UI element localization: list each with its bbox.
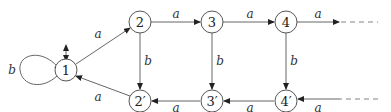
edge-label-2-3: a [172, 7, 179, 21]
state-4: 4 [275, 11, 297, 33]
state-4-prime: 4′ [275, 90, 297, 112]
edge-1-2 [76, 28, 130, 64]
state-1: 1 [55, 59, 77, 81]
state-2: 2 [129, 11, 151, 33]
edge-label-4-next: a [314, 7, 321, 21]
state-label: 2 [136, 15, 144, 30]
edge-1-1 [20, 55, 57, 84]
edge-2p-1 [76, 76, 130, 96]
edge-label-4-4p: b [290, 54, 298, 68]
edge-label-3p-2p: a [172, 101, 179, 112]
state-label: 2′ [134, 94, 145, 109]
edge-label-1-1: b [8, 63, 16, 77]
edge-label-4p-3p: a [246, 101, 253, 112]
state-3-prime: 3′ [201, 90, 223, 112]
edge-label-3-4: a [246, 7, 253, 21]
edge-label-next-4p: a [314, 101, 321, 112]
state-label: 4′ [280, 94, 291, 109]
edge-label-2p-1: a [94, 90, 101, 104]
edge-label-2-2p: b [144, 54, 152, 68]
state-2-prime: 2′ [129, 90, 151, 112]
state-label: 3′ [206, 94, 217, 109]
automaton-diagram: b a a a a b b b a a a a 1 2 3 4 [0, 0, 391, 112]
edge-label-3-3p: b [216, 54, 224, 68]
state-3: 3 [201, 11, 223, 33]
edge-label-1-2: a [94, 27, 101, 41]
state-label: 1 [62, 63, 70, 78]
state-label: 4 [282, 15, 290, 30]
state-label: 3 [208, 15, 216, 30]
